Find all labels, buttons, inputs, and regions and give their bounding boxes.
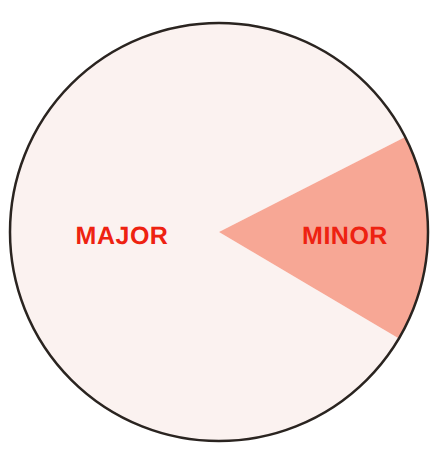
pie-slice-label-minor: MINOR (302, 224, 388, 249)
pie-chart-figure: MAJOR MINOR (0, 0, 440, 474)
pie-slice-label-major: MAJOR (76, 224, 169, 249)
